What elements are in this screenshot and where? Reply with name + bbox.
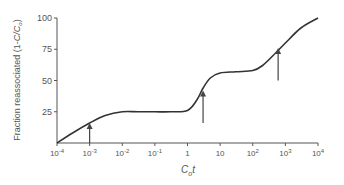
- x-tick-label: 10-4: [50, 148, 65, 158]
- y-tick-label: 25: [42, 107, 52, 117]
- x-tick-label: 102: [247, 148, 260, 158]
- axes: [57, 18, 318, 143]
- x-tick-label: 10: [216, 149, 225, 158]
- y-tick-label: 100: [37, 13, 52, 23]
- arrow-annotation: [87, 123, 93, 143]
- arrow-annotation: [200, 91, 206, 124]
- x-tick-label: 103: [279, 148, 292, 158]
- y-tick-label: 75: [42, 44, 52, 54]
- reassociation-curve: [57, 18, 318, 143]
- x-tick-label: 1: [185, 149, 190, 158]
- y-axis-label: Fraction reassociated (1-C/Co): [12, 19, 23, 140]
- x-tick-label: 10-3: [83, 148, 98, 158]
- x-tick-label: 104: [312, 148, 325, 158]
- x-tick-label: 10-1: [148, 148, 163, 158]
- y-axis-ticks: 255075100: [37, 13, 57, 117]
- x-axis-label: Cot: [181, 164, 196, 177]
- transition-arrows: [87, 48, 282, 143]
- reassociation-chart: 255075100 10-410-310-210-1110102103104 F…: [0, 0, 344, 185]
- y-tick-label: 50: [42, 76, 52, 86]
- x-axis-ticks: 10-410-310-210-1110102103104: [50, 143, 325, 158]
- arrow-annotation: [275, 48, 281, 81]
- x-tick-label: 10-2: [115, 148, 130, 158]
